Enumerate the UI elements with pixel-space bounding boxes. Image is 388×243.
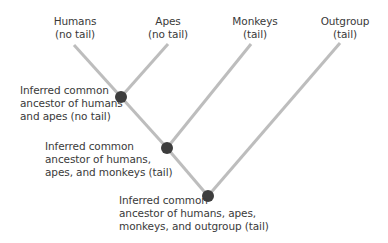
taxon-name: Humans <box>54 15 97 28</box>
taxon-trait: (no tail) <box>54 28 97 41</box>
taxon-trait: (tail) <box>321 28 370 41</box>
taxon-label-monkeys: Monkeys (tail) <box>232 15 277 41</box>
node-label-line: ancestor of humans <box>20 97 123 110</box>
node-label-line: ancestor of humans, apes, <box>119 207 269 220</box>
node-label-line: monkeys, and outgroup (tail) <box>119 220 269 233</box>
taxon-name: Outgroup <box>321 15 370 28</box>
taxon-label-outgroup: Outgroup (tail) <box>321 15 370 41</box>
taxon-label-humans: Humans (no tail) <box>54 15 97 41</box>
node-label-line: Inferred common <box>45 140 172 153</box>
taxon-trait: (tail) <box>232 28 277 41</box>
branch-monkeys <box>167 44 251 148</box>
node-label-line: and apes (no tail) <box>20 110 123 123</box>
taxon-name: Monkeys <box>232 15 277 28</box>
branch-outgroup <box>208 43 340 196</box>
taxon-name: Apes <box>148 15 188 28</box>
node-label-line: apes, and monkeys (tail) <box>45 166 172 179</box>
node-label-humans-apes: Inferred common ancestor of humans and a… <box>20 84 123 123</box>
node-label-humans-apes-monkeys: Inferred common ancestor of humans, apes… <box>45 140 172 179</box>
taxon-label-apes: Apes (no tail) <box>148 15 188 41</box>
branch-node2-to-root <box>167 148 208 196</box>
phylogenetic-tree-diagram: Humans (no tail) Apes (no tail) Monkeys … <box>0 0 388 243</box>
node-label-line: Inferred common <box>20 84 123 97</box>
node-label-line: Inferred common <box>119 194 269 207</box>
branch-apes <box>121 44 168 97</box>
taxon-trait: (no tail) <box>148 28 188 41</box>
node-label-root: Inferred common ancestor of humans, apes… <box>119 194 269 233</box>
node-label-line: ancestor of humans, <box>45 153 172 166</box>
